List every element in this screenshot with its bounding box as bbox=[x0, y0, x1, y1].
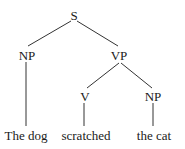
node-np-object: NP bbox=[145, 89, 162, 104]
node-np-subject: NP bbox=[19, 48, 36, 63]
leaf-the-dog: The dog bbox=[5, 128, 48, 143]
parse-tree-diagram: S NP VP V NP The dog scratched the cat bbox=[0, 0, 185, 149]
edge-s-np bbox=[28, 21, 71, 46]
edge-s-vp bbox=[77, 21, 118, 46]
node-s: S bbox=[70, 8, 77, 23]
node-v: V bbox=[80, 89, 90, 104]
edge-vp-v bbox=[87, 63, 119, 88]
leaf-the-cat: the cat bbox=[137, 128, 172, 143]
leaf-scratched: scratched bbox=[61, 128, 111, 143]
node-vp: VP bbox=[111, 48, 128, 63]
edge-vp-np bbox=[121, 63, 152, 88]
